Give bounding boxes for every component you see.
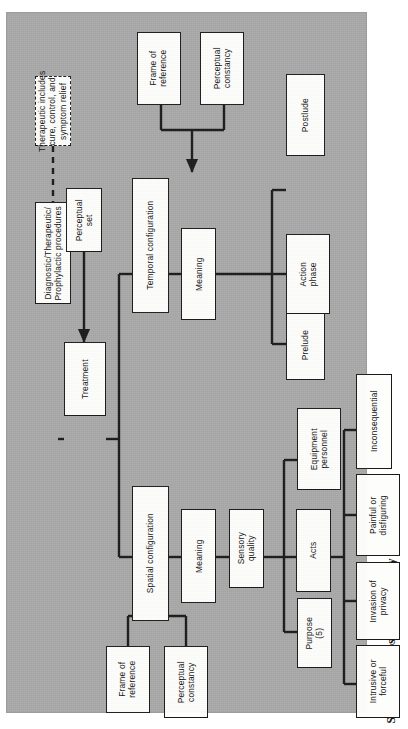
- node-prelude[interactable]: Prelude: [286, 310, 325, 380]
- node-label: Treatment: [80, 359, 90, 399]
- node-label: Acts: [308, 542, 318, 559]
- node-label: Invasion of privacy: [368, 580, 389, 623]
- node-label: Meaning: [193, 257, 203, 291]
- node-equipment-personnel[interactable]: Equipment personnel: [297, 408, 341, 490]
- node-label: Action phase: [298, 262, 319, 286]
- node-acts[interactable]: Acts: [296, 509, 331, 592]
- node-meaning-top[interactable]: Meaning: [181, 228, 216, 320]
- node-label: Temporal configuration: [145, 201, 155, 290]
- node-label: Purpose (5): [304, 617, 325, 650]
- node-label: Frame of reference: [118, 661, 139, 698]
- node-perceptual-constancy-bottom[interactable]: Perceptual constancy: [164, 646, 208, 718]
- node-label: Perceptual set: [74, 199, 95, 241]
- node-label: Sensory quality: [236, 532, 257, 564]
- node-purpose[interactable]: Purpose (5): [297, 598, 332, 668]
- node-invasion-of-privacy[interactable]: Invasion of privacy: [356, 562, 400, 640]
- node-postlude[interactable]: Postlude: [286, 74, 325, 156]
- node-frame-of-reference-top[interactable]: Frame of reference: [137, 32, 181, 105]
- diagram-plate: Therapeutic includes cure, control, and …: [6, 12, 367, 713]
- node-painful-or-disfiguring[interactable]: Painful or disfiguring: [356, 474, 400, 556]
- node-label: Frame of reference: [149, 50, 170, 87]
- node-label: Prelude: [300, 330, 310, 360]
- node-label: Therapeutic includes cure, control, and …: [38, 70, 69, 151]
- node-label: Meaning: [193, 539, 203, 573]
- node-intrusive-or-forceful[interactable]: Intrusive or forceful: [356, 645, 400, 718]
- node-sensory-quality[interactable]: Sensory quality: [229, 509, 264, 588]
- node-perceptual-set[interactable]: Perceptual set: [66, 188, 102, 252]
- node-label: Postlude: [300, 98, 310, 132]
- node-temporal-configuration[interactable]: Temporal configuration: [132, 178, 169, 313]
- node-action-phase[interactable]: Action phase: [286, 234, 330, 314]
- node-spatial-configuration[interactable]: Spatial configuration: [132, 486, 169, 621]
- figure-root: Therapeutic includes cure, control, and …: [0, 0, 408, 729]
- node-label: Painful or disfiguring: [368, 495, 389, 535]
- node-label: Equipment personnel: [309, 428, 330, 470]
- node-label: Diagnostic/Therapeutic/ Prophylactic pro…: [43, 206, 64, 300]
- node-frame-of-reference-bottom[interactable]: Frame of reference: [106, 646, 150, 713]
- node-meaning-bottom[interactable]: Meaning: [181, 509, 216, 603]
- node-treatment[interactable]: Treatment: [64, 342, 106, 416]
- node-label: Spatial configuration: [145, 513, 155, 593]
- node-perceptual-constancy-top[interactable]: Perceptual constancy: [200, 32, 244, 105]
- node-label: Perceptual constancy: [212, 47, 233, 89]
- node-label: Intrusive or forceful: [368, 660, 389, 704]
- node-label: Inconsequential: [369, 391, 379, 453]
- node-label: Perceptual constancy: [176, 661, 197, 703]
- node-inconsequential[interactable]: Inconsequential: [356, 374, 392, 469]
- node-therapeutic-includes[interactable]: Therapeutic includes cure, control, and …: [35, 76, 71, 146]
